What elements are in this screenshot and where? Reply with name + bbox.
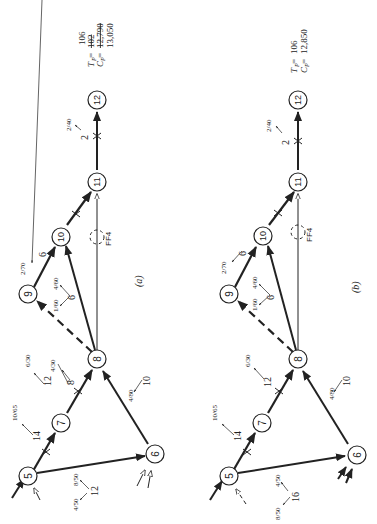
node-9-a: 9 [19, 285, 37, 303]
label-5-6-duration: 16 [290, 492, 301, 502]
edges-a [12, 0, 151, 500]
node-10-b: 10 [254, 227, 272, 245]
node-12-a: 12 [88, 91, 106, 109]
label-5-7-duration: 14 [232, 431, 243, 441]
label-5-7-cost: 10/65 [11, 405, 19, 421]
svg-text:8: 8 [293, 356, 304, 362]
label-6-8-duration: 10 [341, 376, 352, 386]
label-7-8-duration: 12 [262, 377, 273, 387]
svg-text:11: 11 [293, 177, 303, 186]
node-8-b: 8 [289, 350, 307, 368]
cp-new-value: 13,050 [105, 23, 115, 48]
svg-text:9: 9 [224, 291, 235, 297]
label-11-12-cost: 2/40 [65, 118, 73, 131]
node-5-a: 5 [19, 467, 37, 485]
svg-text:10: 10 [258, 231, 268, 241]
label-7-8-cost-crashed: 4/30 [49, 359, 57, 372]
node-12-b: 12 [289, 91, 307, 109]
diagram-b: 5 6 7 8 9 10 11 12 14 10/65 12 6/30 16 4… [210, 29, 366, 520]
label-8-9-cost: 1/60 [52, 299, 60, 312]
svg-text:8: 8 [92, 356, 103, 362]
cp-old-value-struck: 12,790 [95, 23, 105, 48]
edge-in-6-b [346, 469, 352, 483]
node-11-b: 11 [289, 173, 307, 191]
cp-equals: = [95, 53, 105, 58]
svg-text:11: 11 [92, 177, 102, 186]
edge-7-8 [67, 370, 92, 413]
svg-text:10: 10 [56, 232, 66, 242]
edge-in-6-a [338, 467, 346, 479]
label-5-6-duration: 12 [89, 486, 100, 496]
svg-text:6: 6 [150, 451, 161, 457]
edge-in-5 [210, 481, 222, 500]
cp-equals: = [299, 59, 309, 64]
svg-text:7: 7 [257, 420, 268, 426]
edge-in-5-ff [34, 488, 40, 500]
label-8-10-cost: 4/60 [52, 277, 60, 290]
label-9-10-cost: 2/70 [19, 262, 27, 275]
node-7-b: 7 [253, 414, 271, 432]
label-11-12-duration: 2 [280, 140, 291, 145]
label-8-9-10-duration: 6 [265, 295, 276, 300]
node-6-b: 6 [348, 446, 366, 464]
label-11-12-duration: 2 [79, 135, 90, 140]
edge-7-8 [268, 370, 293, 413]
summary-b: T P = 106 C P = 12,850 [289, 29, 310, 73]
edge-in-5-ff [236, 489, 246, 504]
label-9-10-duration: 6 [37, 252, 48, 257]
node-10-a: 10 [52, 228, 70, 246]
svg-text:9: 9 [23, 291, 34, 297]
svg-text:5: 5 [23, 473, 34, 479]
edge-5-6 [37, 456, 145, 473]
crash-mark-10-11 [274, 210, 282, 216]
label-9-10-cost: 2/70 [220, 261, 228, 274]
edge-10-11 [269, 192, 294, 225]
node-6-a: 6 [146, 445, 164, 463]
svg-text:12: 12 [293, 95, 303, 105]
svg-text:7: 7 [56, 420, 67, 426]
edge-5-6 [238, 456, 345, 473]
label-5-6-cost-1: 4/50 [274, 474, 282, 487]
edge-in-6-a [137, 470, 145, 486]
label-7-8-duration: 12 [42, 376, 53, 386]
label-5-6-cost-1: 8/50 [72, 473, 80, 486]
caption-b: (b) [350, 281, 362, 293]
network-diagrams-page: 5 6 7 8 9 10 11 12 14 10/65 12 6/30 8 4/… [0, 0, 377, 524]
svg-text:5: 5 [224, 473, 235, 479]
edges-b [210, 112, 352, 505]
node-11-a: 11 [88, 173, 106, 191]
svg-text:6: 6 [352, 452, 363, 458]
label-5-7-duration: 14 [31, 431, 42, 441]
label-8-9-10-duration: 6 [66, 295, 77, 300]
label-7-8-duration-crashed: 8 [65, 380, 76, 385]
tp-equals: = [289, 59, 299, 64]
node-8-a: 8 [88, 350, 106, 368]
summary-a: 106 T P = 102 C P = 12,790 13,050 [77, 23, 115, 67]
node-7-a: 7 [52, 414, 70, 432]
edge-10-11 [67, 192, 91, 225]
label-5-7-cost: 10/65 [211, 405, 219, 421]
label-8-10-cost: 4/60 [251, 276, 259, 289]
cp-value: 12,850 [299, 29, 309, 54]
label-7-8-cost: 6/30 [244, 354, 252, 367]
label-7-8-cost: 6/30 [24, 354, 32, 367]
label-9-10-duration: 6 [237, 251, 248, 256]
label-5-6-cost-2: 4/50 [72, 498, 80, 511]
svg-text:12: 12 [92, 95, 102, 105]
label-ff4: FF4 [305, 227, 314, 242]
label-8-9-cost: 1/60 [251, 298, 259, 311]
tp-value: 106 [289, 40, 299, 54]
label-6-8-duration: 10 [141, 376, 152, 386]
label-5-6-cost-2: 8/50 [274, 507, 282, 520]
diagram-a: 5 6 7 8 9 10 11 12 14 10/65 12 6/30 8 4/… [11, 0, 164, 511]
node-9-b: 9 [220, 285, 238, 303]
edge-in-6-b [148, 471, 151, 488]
label-6-8-cost: 4/80 [328, 387, 336, 400]
label-11-12-cost: 2/40 [265, 119, 273, 132]
label-6-8-cost: 4/80 [127, 389, 135, 402]
caption-a: (a) [133, 275, 145, 287]
label-ff4: FF4 [104, 231, 113, 246]
node-5-b: 5 [220, 467, 238, 485]
